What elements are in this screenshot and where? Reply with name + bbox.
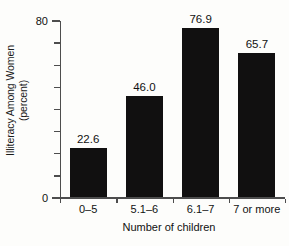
y-axis-title-line1: Illiteracy Among Women [4,45,16,156]
bar-value-label: 22.6 [58,133,118,145]
bar-value-label: 76.9 [171,13,231,25]
y-axis-tick [52,197,60,198]
bar-value-label: 46.0 [114,81,174,93]
bar [126,96,163,198]
bar-chart-figure: Illiteracy Among Women (percent) 080 22.… [0,0,289,246]
x-axis-category-label: 7 or more [221,203,289,216]
y-axis-tick-label: 80 [0,16,48,26]
bar [70,148,107,198]
bar [182,28,219,198]
y-axis-title-line2: (percent) [16,45,29,156]
bar [238,53,275,198]
y-axis-tick-label: 0 [0,193,48,203]
x-axis-title: Number of children [52,221,286,233]
y-axis-tick [52,20,60,21]
y-axis-title: Illiteracy Among Women (percent) [0,0,32,200]
bar-value-label: 65.7 [227,38,287,50]
